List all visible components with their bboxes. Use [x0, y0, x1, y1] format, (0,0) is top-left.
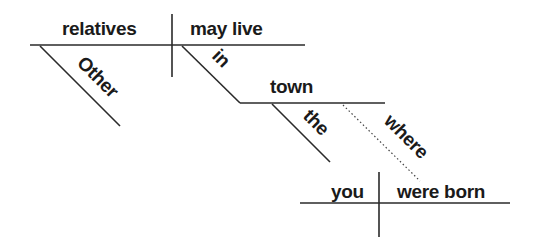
- article-word: the: [299, 105, 333, 139]
- sentence-diagram: relatives may live Other in town the whe…: [0, 0, 540, 249]
- subordinate-verb-word: were born: [396, 181, 485, 202]
- subject-word: relatives: [62, 18, 136, 39]
- subordinate-subject-word: you: [331, 181, 364, 202]
- relative-connector-word: where: [379, 109, 432, 162]
- other-modifier-word: Other: [73, 52, 123, 102]
- object-word: town: [270, 76, 313, 97]
- verb-word: may live: [190, 18, 263, 39]
- preposition-word: in: [208, 45, 234, 71]
